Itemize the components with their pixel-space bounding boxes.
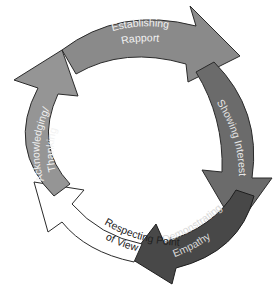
cycle-diagram: Establishing Rapport Showing Interest De…	[0, 0, 277, 292]
step-acknowledging-thanking: Acknowledging/ Thanking	[14, 50, 78, 196]
